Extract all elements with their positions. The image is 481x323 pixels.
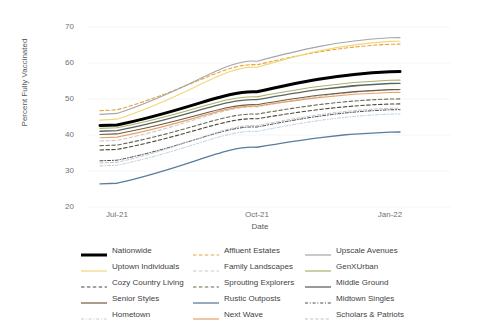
legend-label: Scholars & Patriots [336, 310, 404, 320]
legend-swatch-icon [80, 310, 108, 320]
legend-swatch-icon [304, 310, 332, 320]
legend-swatch-icon [192, 278, 220, 288]
legend-swatch-icon [80, 294, 108, 304]
legend-swatch-icon [304, 246, 332, 256]
legend-swatch-icon [80, 246, 108, 256]
legend-swatch-icon [80, 278, 108, 288]
legend-item[interactable]: Hometown [80, 307, 192, 323]
legend-label: Uptown Individuals [112, 262, 179, 272]
legend-label: Midtown Singles [336, 294, 394, 304]
legend-swatch-icon [304, 294, 332, 304]
legend-item[interactable]: Cozy Country Living [80, 275, 192, 291]
legend-item[interactable]: GenXUrban [304, 259, 444, 275]
legend-label: Hometown [112, 310, 150, 320]
legend-label: Rustic Outposts [224, 294, 280, 304]
legend-item[interactable]: Sprouting Explorers [192, 275, 304, 291]
series-line [100, 71, 400, 125]
legend-label: Upscale Avenues [336, 246, 398, 256]
legend-swatch-icon [192, 310, 220, 320]
legend-item[interactable]: Midtown Singles [304, 291, 444, 307]
legend-swatch-icon [304, 278, 332, 288]
legend-item[interactable]: Next Wave [192, 307, 304, 323]
legend-label: Nationwide [112, 246, 152, 256]
legend-label: Senior Styles [112, 294, 159, 304]
legend-item[interactable]: Middle Ground [304, 275, 444, 291]
legend-label: Cozy Country Living [112, 278, 184, 288]
legend-item[interactable]: Affluent Estates [192, 243, 304, 259]
legend-item[interactable]: Scholars & Patriots [304, 307, 444, 323]
vaccination-line-chart: Percent Fully Vaccinated Date 2030405060… [0, 0, 481, 323]
legend-swatch-icon [192, 294, 220, 304]
legend-label: Family Landscapes [224, 262, 293, 272]
legend-swatch-icon [304, 262, 332, 272]
legend-label: Sprouting Explorers [224, 278, 294, 288]
legend-item[interactable]: Family Landscapes [192, 259, 304, 275]
legend-item[interactable]: Senior Styles [80, 291, 192, 307]
series-line [100, 38, 400, 115]
legend-label: GenXUrban [336, 262, 378, 272]
series-line [100, 41, 400, 120]
legend-swatch-icon [192, 262, 220, 272]
legend-item[interactable]: Rustic Outposts [192, 291, 304, 307]
legend-label: Middle Ground [336, 278, 388, 288]
legend-label: Next Wave [224, 310, 263, 320]
legend-swatch-icon [192, 246, 220, 256]
legend-swatch-icon [80, 262, 108, 272]
chart-legend: NationwideAffluent EstatesUpscale Avenue… [80, 243, 480, 323]
series-line [100, 90, 400, 141]
series-line [100, 132, 400, 184]
legend-item[interactable]: Upscale Avenues [304, 243, 444, 259]
legend-item[interactable]: Nationwide [80, 243, 192, 259]
legend-item[interactable]: Uptown Individuals [80, 259, 192, 275]
legend-label: Affluent Estates [224, 246, 280, 256]
